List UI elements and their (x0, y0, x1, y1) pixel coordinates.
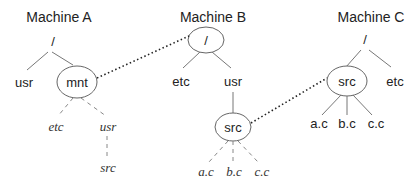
machine-b-tree: Machine B / etc usr src a.c b.c c.c (172, 9, 269, 179)
edge-b-src-cc (238, 141, 258, 162)
file-system-mount-diagram: Machine A / usr mnt etc usr src Machine … (0, 0, 420, 190)
edge-b-root-usr (212, 52, 231, 68)
machine-a-tree: Machine A / usr mnt etc usr src (15, 9, 117, 175)
machine-a-root: / (51, 34, 55, 49)
machine-c-root: / (363, 32, 367, 47)
edge-c-root-src (346, 50, 361, 67)
machine-c-etc: etc (386, 74, 404, 89)
machine-a-mnt: mnt (66, 75, 88, 90)
machine-b-root: / (204, 33, 208, 48)
edge-c-src-ac (322, 95, 341, 115)
mount-link-a-mnt-to-b-root (97, 36, 189, 78)
edge-a-mnt-usr (81, 98, 106, 116)
machine-a-title: Machine A (26, 9, 92, 25)
machine-c-file-bc: b.c (338, 116, 356, 131)
machine-b-file-bc: b.c (226, 164, 242, 179)
machine-b-usr: usr (224, 74, 243, 89)
machine-b-file-ac: a.c (198, 164, 214, 179)
edge-a-root-usr (27, 52, 48, 70)
machine-c-title: Machine C (338, 9, 405, 25)
machine-c-file-cc: c.c (368, 116, 385, 131)
edge-c-src-cc (353, 95, 372, 115)
machine-b-title: Machine B (180, 9, 246, 25)
machine-a-mounted-usr: usr (100, 119, 118, 134)
machine-b-src: src (224, 120, 242, 135)
edge-a-mnt-etc (58, 98, 73, 116)
machine-b-etc: etc (172, 74, 190, 89)
machine-b-file-cc: c.c (255, 164, 270, 179)
edge-a-root-mnt (52, 52, 73, 65)
edge-c-root-etc (369, 50, 391, 67)
edge-b-src-ac (209, 141, 228, 162)
machine-c-src: src (338, 74, 356, 89)
machine-c-file-ac: a.c (310, 116, 328, 131)
edge-b-root-etc (183, 52, 200, 68)
machine-c-tree: Machine C / src etc a.c b.c c.c (310, 9, 404, 131)
machine-a-usr: usr (15, 75, 34, 90)
machine-a-mounted-src: src (100, 160, 116, 175)
machine-a-mounted-etc: etc (48, 119, 63, 134)
